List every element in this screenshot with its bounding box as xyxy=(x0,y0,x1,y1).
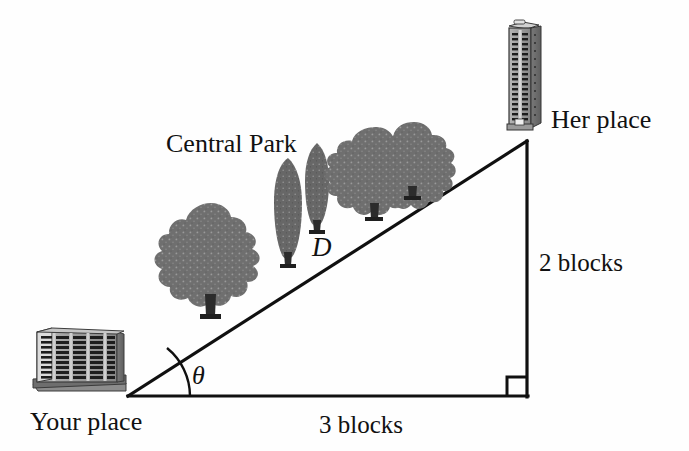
figure-canvas: Your place Her place Central Park 2 bloc… xyxy=(0,0,689,451)
diagram-svg xyxy=(0,0,689,451)
apartment-building-icon xyxy=(33,328,126,391)
label-angle-theta: θ xyxy=(192,363,205,389)
label-central-park: Central Park xyxy=(166,131,297,157)
cypress-tree-icon xyxy=(274,158,302,268)
label-hypotenuse-distance: D xyxy=(312,234,332,261)
angle-arc-icon xyxy=(167,348,190,396)
right-angle-marker-icon xyxy=(507,377,527,396)
label-your-place: Your place xyxy=(30,409,142,435)
broadleaf-tree-icon xyxy=(155,203,260,319)
label-horizontal-side-measure: 3 blocks xyxy=(319,412,403,437)
tower-building-icon xyxy=(507,20,541,130)
cypress-tree-icon xyxy=(305,143,329,234)
label-her-place: Her place xyxy=(551,107,651,133)
label-vertical-side-measure: 2 blocks xyxy=(539,250,623,275)
